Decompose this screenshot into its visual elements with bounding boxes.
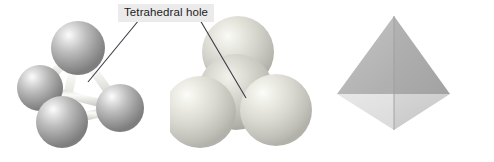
- sphere-front-right: [240, 74, 312, 146]
- ball-and-stick-panel: [0, 0, 170, 162]
- sphere-group: [17, 21, 144, 148]
- sphere-bottom: [36, 96, 88, 148]
- space-filling-svg: [170, 0, 320, 162]
- ball-and-stick-svg: [0, 0, 170, 162]
- tetra-face-lower-right: [394, 94, 450, 130]
- space-filling-panel: [170, 0, 320, 162]
- sphere-top: [51, 21, 105, 75]
- tetrahedral-hole-figure: Tetrahedral hole: [0, 0, 494, 162]
- sphere-right: [96, 84, 144, 132]
- tetra-face-lower-left: [337, 94, 394, 130]
- solid-tetrahedron-panel: [320, 0, 494, 162]
- tetrahedral-hole-label: Tetrahedral hole: [118, 4, 214, 22]
- tetra-face-upper-left: [337, 16, 394, 94]
- solid-tetrahedron-svg: [320, 0, 494, 162]
- tetra-face-upper-right: [394, 16, 450, 94]
